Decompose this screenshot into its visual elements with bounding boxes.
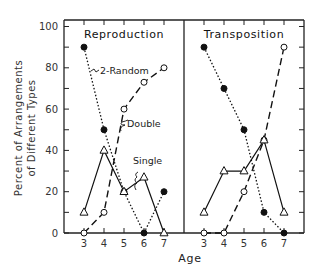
y-tick-label: 20 xyxy=(45,186,58,197)
data-point-filled-circle xyxy=(241,127,247,133)
annotation-pointer-random xyxy=(91,69,99,72)
data-point-filled-circle xyxy=(161,189,167,195)
data-point-open-circle xyxy=(101,209,107,215)
data-point-filled-circle xyxy=(261,209,267,215)
data-point-open-triangle xyxy=(160,229,168,236)
y-axis-label-line1: Percent of Arrangements xyxy=(13,60,24,196)
annotation-single: Single xyxy=(133,155,162,166)
data-point-open-circle xyxy=(281,44,287,50)
series-line xyxy=(204,47,284,233)
y-axis-label: Percent of Arrangements of Different Typ… xyxy=(13,60,37,196)
y-tick-label: 60 xyxy=(45,104,58,115)
data-point-filled-circle xyxy=(201,44,207,50)
data-point-open-circle xyxy=(141,79,147,85)
x-tick-label: 5 xyxy=(121,238,127,249)
x-tick-label: 7 xyxy=(161,238,167,249)
series-2-random xyxy=(201,44,287,236)
data-point-filled-circle xyxy=(141,230,147,236)
series-single xyxy=(200,136,288,216)
series-line xyxy=(204,140,284,212)
x-tick-label: 5 xyxy=(241,238,247,249)
data-point-open-circle xyxy=(201,230,207,236)
data-point-open-circle xyxy=(81,230,87,236)
plot-frame xyxy=(64,20,304,233)
annotation-double: Double xyxy=(127,118,161,129)
data-point-filled-circle xyxy=(221,85,227,91)
line-chart: 020406080100 3456734567 Reproduction Tra… xyxy=(0,0,321,276)
series-double xyxy=(201,44,287,236)
x-tick-label: 7 xyxy=(281,238,287,249)
data-point-filled-circle xyxy=(81,44,87,50)
data-point-open-circle xyxy=(121,106,127,112)
data-point-open-triangle xyxy=(200,208,208,215)
x-tick-label: 4 xyxy=(101,238,107,249)
data-point-open-circle xyxy=(241,189,247,195)
series-line xyxy=(204,47,284,233)
series-double xyxy=(81,65,167,236)
annotation-2-random: 2-Random xyxy=(100,65,149,76)
data-point-open-triangle xyxy=(220,167,228,174)
data-point-open-circle xyxy=(161,65,167,71)
data-point-open-triangle xyxy=(280,208,288,215)
x-axis-label: Age xyxy=(178,252,202,265)
data-point-filled-circle xyxy=(281,230,287,236)
x-tick-label: 6 xyxy=(261,238,267,249)
data-point-open-circle xyxy=(221,230,227,236)
y-tick-label: 40 xyxy=(45,145,58,156)
series-line xyxy=(84,68,164,233)
data-point-open-triangle xyxy=(140,173,148,180)
y-tick-label: 100 xyxy=(39,21,58,32)
x-tick-label: 6 xyxy=(141,238,147,249)
x-tick-labels: 3456734567 xyxy=(81,238,287,249)
y-tick-label: 0 xyxy=(52,228,58,239)
x-tick-label: 4 xyxy=(221,238,227,249)
panel-title-transposition: Transposition xyxy=(203,28,284,41)
annotation-pointer-single xyxy=(135,172,138,190)
data-point-filled-circle xyxy=(101,127,107,133)
y-axis-label-line2: of Different Types xyxy=(26,79,37,176)
data-point-open-triangle xyxy=(100,146,108,153)
x-tick-label: 3 xyxy=(201,238,207,249)
panel-title-reproduction: Reproduction xyxy=(84,28,164,41)
data-point-open-triangle xyxy=(80,208,88,215)
y-tick-labels: 020406080100 xyxy=(39,21,58,239)
y-tick-label: 80 xyxy=(45,62,58,73)
x-tick-label: 3 xyxy=(81,238,87,249)
